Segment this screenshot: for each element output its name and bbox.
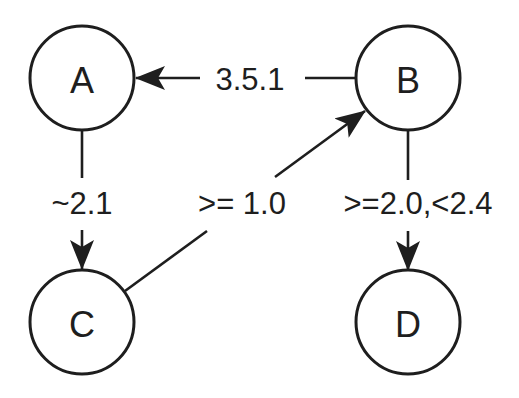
node-b: B (356, 26, 460, 130)
edge-label-b-d: >=2.0,<2.4 (343, 186, 492, 221)
node-a: A (30, 26, 134, 130)
dependency-graph: 3.5.1 ~2.1 >= 1.0 >=2.0,<2.4 A B C D (0, 0, 519, 398)
edge-line (125, 231, 207, 291)
node-label-a: A (70, 60, 94, 101)
edge-label-c-b: >= 1.0 (198, 186, 286, 221)
edge-arrow-line (275, 111, 365, 177)
edge-a-to-c: ~2.1 (51, 131, 112, 269)
node-d: D (356, 270, 460, 374)
edge-label-a-c: ~2.1 (51, 186, 112, 221)
edge-b-to-a: 3.5.1 (136, 62, 355, 97)
edge-b-to-d: >=2.0,<2.4 (343, 131, 492, 270)
node-label-d: D (395, 304, 421, 345)
edge-c-to-b: >= 1.0 (125, 111, 365, 291)
node-c: C (30, 270, 134, 374)
node-label-c: C (69, 304, 95, 345)
edge-label-b-a: 3.5.1 (216, 62, 285, 97)
node-label-b: B (396, 60, 420, 101)
